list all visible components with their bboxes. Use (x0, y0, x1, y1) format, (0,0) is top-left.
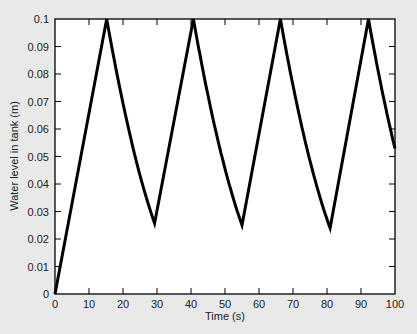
x-tick-label: 40 (185, 298, 197, 310)
x-tick-label: 30 (151, 298, 163, 310)
x-tick-label: 0 (52, 298, 58, 310)
x-tick-label: 20 (117, 298, 129, 310)
x-tick-label: 80 (321, 298, 333, 310)
x-axis-label: Time (s) (205, 310, 245, 322)
y-tick-label: 0.02 (28, 233, 49, 245)
line-chart: 0102030405060708090100 00.010.020.030.04… (0, 0, 417, 334)
x-tick-label: 10 (83, 298, 95, 310)
y-tick-label: 0.03 (28, 206, 49, 218)
y-tick-label: 0.06 (28, 123, 49, 135)
y-tick-label: 0.01 (28, 261, 49, 273)
x-tick-label: 70 (287, 298, 299, 310)
x-tick-label: 100 (386, 298, 404, 310)
y-tick-label: 0.1 (34, 13, 49, 25)
y-tick-label: 0.09 (28, 41, 49, 53)
x-tick-label: 50 (219, 298, 231, 310)
y-tick-labels: 00.010.020.030.040.050.060.070.080.090.1 (28, 13, 49, 300)
y-tick-label: 0.05 (28, 151, 49, 163)
x-tick-labels: 0102030405060708090100 (52, 298, 404, 310)
y-tick-label: 0.04 (28, 178, 49, 190)
y-tick-label: 0.07 (28, 96, 49, 108)
y-tick-label: 0 (43, 288, 49, 300)
y-axis-label: Water level in tank (m) (8, 101, 20, 211)
y-tick-label: 0.08 (28, 68, 49, 80)
x-tick-label: 60 (253, 298, 265, 310)
x-tick-label: 90 (355, 298, 367, 310)
